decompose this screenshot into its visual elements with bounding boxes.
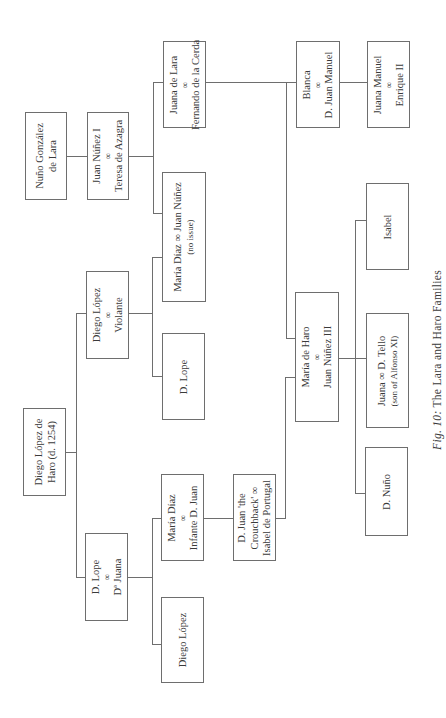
- connector-line: [153, 213, 162, 214]
- node-maria-diaz-infante-d-juan: María Díaz ∞ Infante D. Juan: [161, 474, 204, 561]
- connector-line: [355, 220, 366, 221]
- connector-line: [276, 518, 285, 519]
- node-label: Dª Juana: [111, 558, 124, 595]
- connector-line: [152, 376, 162, 377]
- family-tree-diagram: Nuño González de Lara Juan Núñez I ∞ Ter…: [0, 0, 446, 718]
- connector-line: [153, 82, 163, 83]
- connector-line: [152, 257, 162, 258]
- node-blanca: Blanca ∞ D. Juan Manuel: [296, 41, 340, 128]
- node-label: D. Nuño: [380, 473, 393, 509]
- connector-line: [76, 577, 85, 578]
- connector-line: [286, 338, 295, 339]
- node-juan-nunez-i: Juan Núñez I ∞ Teresa de Azagra: [87, 112, 129, 200]
- connector-line: [152, 257, 153, 377]
- connector-line: [152, 644, 161, 645]
- node-juana-d-tello: Juana ∞ D. Tello (son of Alfonso XI): [366, 313, 409, 428]
- connector-line: [129, 313, 152, 314]
- connector-line: [76, 313, 86, 314]
- node-label: Infante D. Juan: [187, 485, 200, 549]
- marriage-symbol: ∞: [103, 288, 112, 343]
- node-label: Juana ∞ D. Tello: [376, 335, 389, 406]
- node-label: María Díaz: [166, 485, 179, 549]
- node-label: Diego López: [91, 288, 104, 343]
- node-diego-lopez: Diego López: [161, 597, 204, 683]
- node-label: Enrique II: [393, 55, 406, 114]
- node-maria-diaz-juan-nunez: María Díaz ∞ Juan Núñez (no issue): [162, 172, 206, 302]
- connector-line: [128, 577, 152, 578]
- node-juana-manuel: Juana Manuel ∞ Enrique II: [367, 41, 410, 128]
- connector-line: [67, 156, 87, 157]
- connector-line: [76, 313, 77, 578]
- node-d-lope: D. Lope: [162, 333, 205, 420]
- node-label: D. Juan 'the: [236, 480, 249, 556]
- node-note: (no issue): [185, 182, 196, 292]
- figure-title: The Lara and Haro Families: [431, 270, 443, 407]
- marriage-symbol: ∞: [314, 51, 323, 118]
- node-label: Fernando de la Cerda: [189, 39, 202, 129]
- node-d-lope-da-juana: D. Lope ∞ Dª Juana: [85, 533, 128, 621]
- node-juana-de-lara: Juana de Lara ∞ Fernando de la Cerda: [163, 41, 206, 128]
- node-label: Blanca: [301, 51, 314, 118]
- figure-caption: Fig. 10: The Lara and Haro Families: [431, 270, 443, 450]
- node-label: Nuño González: [34, 123, 47, 189]
- node-label: Juana Manuel: [372, 55, 385, 114]
- node-label: Isabel de Portugal: [261, 480, 274, 556]
- node-maria-de-haro: María de Haro ∞ Juan Núñez III: [295, 292, 339, 422]
- node-label: Teresa de Azagra: [113, 120, 126, 192]
- node-label: Isabel: [381, 214, 394, 239]
- marriage-symbol: ∞: [178, 485, 187, 549]
- connector-line: [285, 377, 286, 519]
- node-d-nuno: D. Nuño: [365, 447, 408, 536]
- node-label: Crouchback' ∞: [248, 480, 261, 556]
- connector-line: [285, 377, 295, 378]
- marriage-symbol: ∞: [104, 120, 113, 192]
- node-label: de Lara: [46, 123, 59, 189]
- connector-line: [66, 452, 76, 453]
- connector-line: [355, 493, 365, 494]
- node-nuno-gonzalez-de-lara: Nuño González de Lara: [25, 112, 67, 200]
- node-note: (son of Alfonso XI): [388, 335, 399, 406]
- marriage-symbol: ∞: [102, 558, 111, 595]
- node-isabel: Isabel: [366, 183, 409, 270]
- connector-line: [355, 358, 366, 359]
- connector-line: [204, 518, 233, 519]
- node-label: Juan Núñez I: [91, 120, 104, 192]
- connector-line: [152, 518, 153, 645]
- connector-line: [339, 358, 355, 359]
- node-diego-lopez-violante: Diego López ∞ Violante: [86, 271, 129, 359]
- node-label: D. Juan Manuel: [323, 51, 336, 118]
- node-label: D. Lope: [177, 359, 190, 393]
- node-d-juan-the-crouchback: D. Juan 'the Crouchback' ∞ Isabel de Por…: [233, 474, 276, 561]
- node-label: Diego López: [176, 613, 189, 668]
- marriage-symbol: ∞: [384, 55, 393, 114]
- node-label: D. Lope: [90, 558, 103, 595]
- connector-line: [153, 82, 154, 214]
- node-label: María Díaz ∞ Juan Núñez: [172, 182, 185, 292]
- connector-line: [286, 82, 287, 339]
- node-label: Juana de Lara: [168, 39, 181, 129]
- marriage-symbol: ∞: [313, 326, 322, 388]
- node-label: Haro (d. 1254): [45, 418, 58, 485]
- marriage-symbol: ∞: [180, 39, 189, 129]
- node-label: Juan Núñez III: [322, 326, 335, 388]
- connector-line: [355, 220, 356, 494]
- node-label: María de Haro: [300, 326, 313, 388]
- node-label: Violante: [112, 288, 125, 343]
- connector-line: [129, 156, 153, 157]
- node-diego-lopez-de-haro: Diego López de Haro (d. 1254): [23, 408, 66, 496]
- connector-line: [152, 518, 161, 519]
- connector-line: [340, 82, 367, 83]
- node-label: Diego López de: [32, 418, 45, 485]
- figure-number: Fig. 10:: [431, 410, 443, 449]
- connector-line: [206, 82, 296, 83]
